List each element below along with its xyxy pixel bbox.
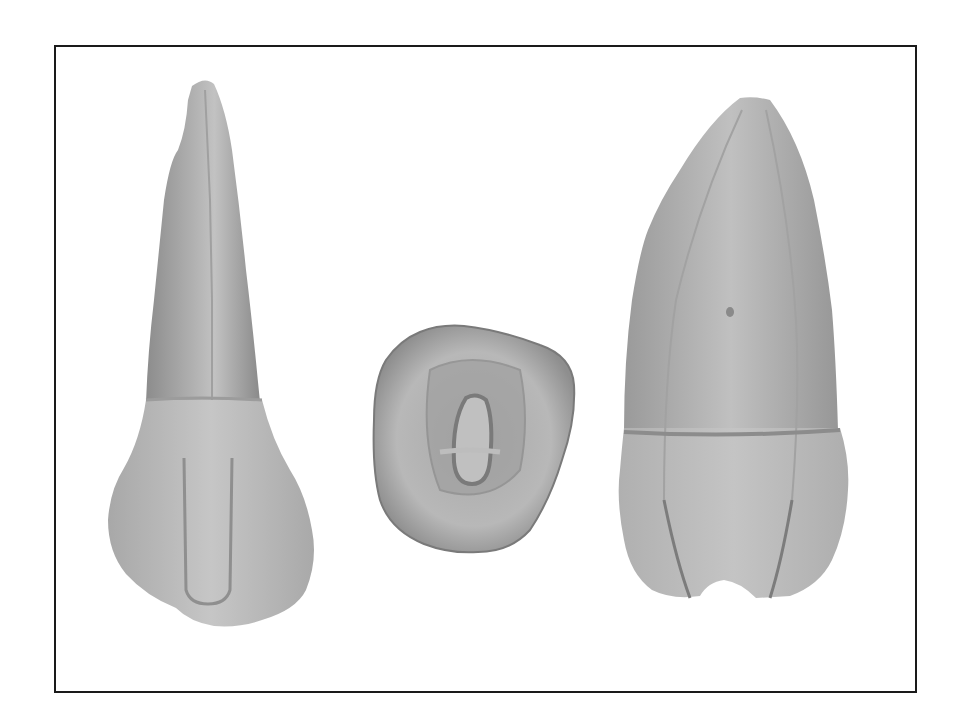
surface-spot: [726, 307, 734, 317]
tooth-proximal-view: [619, 97, 849, 598]
tooth-root: [624, 97, 838, 430]
tooth-root: [146, 80, 260, 402]
transverse-ridge: [440, 450, 500, 452]
tooth-crown: [619, 428, 849, 598]
tooth-occlusal-view: [374, 326, 575, 553]
tooth-crown: [108, 400, 314, 626]
central-groove: [454, 395, 492, 484]
tooth-views-figure: [0, 0, 969, 727]
tooth-lingual-view: [108, 80, 314, 626]
